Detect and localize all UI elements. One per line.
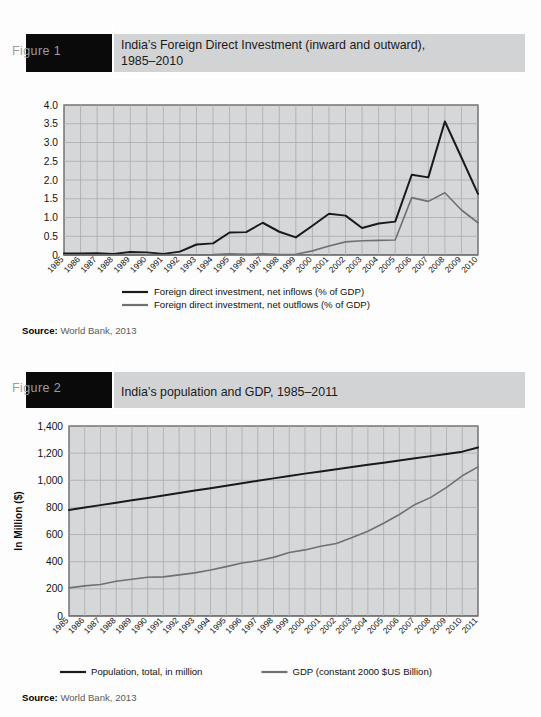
figure-1-vertical-rule bbox=[112, 20, 114, 78]
svg-text:1,000: 1,000 bbox=[38, 475, 64, 486]
svg-text:1987: 1987 bbox=[78, 254, 98, 274]
svg-text:1996: 1996 bbox=[223, 615, 243, 635]
svg-text:1988: 1988 bbox=[97, 615, 117, 635]
svg-text:2.0: 2.0 bbox=[44, 175, 58, 186]
svg-text:2004: 2004 bbox=[360, 254, 380, 274]
svg-text:800: 800 bbox=[46, 502, 63, 513]
svg-text:1995: 1995 bbox=[207, 615, 227, 635]
svg-text:1988: 1988 bbox=[95, 254, 115, 274]
svg-text:3.0: 3.0 bbox=[44, 137, 58, 148]
figure-1-tab-label: Figure 1 bbox=[12, 44, 61, 58]
svg-text:2011: 2011 bbox=[460, 615, 480, 635]
svg-text:2000: 2000 bbox=[286, 615, 306, 635]
svg-text:200: 200 bbox=[46, 583, 63, 594]
svg-text:1998: 1998 bbox=[260, 254, 280, 274]
figure-2-tab-label: Figure 2 bbox=[12, 381, 61, 395]
svg-text:1994: 1994 bbox=[192, 615, 212, 635]
svg-text:1992: 1992 bbox=[160, 615, 180, 635]
svg-text:0.5: 0.5 bbox=[44, 231, 58, 242]
svg-text:1.0: 1.0 bbox=[44, 212, 58, 223]
fdi-line-chart: 00.51.01.52.02.53.03.54.0198519861987198… bbox=[0, 96, 541, 321]
svg-text:2009: 2009 bbox=[443, 254, 463, 274]
svg-text:2003: 2003 bbox=[343, 254, 363, 274]
svg-text:Foreign direct investment, net: Foreign direct investment, net inflows (… bbox=[154, 286, 364, 297]
figure-2-title: India’s population and GDP, 1985–2011 bbox=[121, 385, 338, 401]
svg-text:2007: 2007 bbox=[409, 254, 429, 274]
svg-text:2010: 2010 bbox=[459, 254, 479, 274]
y-axis-ticks: 00.51.01.52.02.53.03.54.0 bbox=[44, 100, 59, 261]
svg-text:2007: 2007 bbox=[396, 615, 416, 635]
svg-text:1989: 1989 bbox=[113, 615, 133, 635]
svg-text:1999: 1999 bbox=[277, 254, 297, 274]
svg-text:2009: 2009 bbox=[428, 615, 448, 635]
svg-text:1998: 1998 bbox=[255, 615, 275, 635]
svg-text:2005: 2005 bbox=[365, 615, 385, 635]
svg-text:1,400: 1,400 bbox=[38, 421, 64, 432]
figure-1-source-value: World Bank, 2013 bbox=[60, 325, 136, 336]
svg-text:1995: 1995 bbox=[211, 254, 231, 274]
svg-text:2002: 2002 bbox=[318, 615, 338, 635]
figure-2-underline bbox=[112, 412, 525, 414]
svg-text:3.5: 3.5 bbox=[44, 118, 58, 129]
svg-text:2.5: 2.5 bbox=[44, 156, 58, 167]
svg-text:2008: 2008 bbox=[426, 254, 446, 274]
svg-text:4.0: 4.0 bbox=[44, 100, 58, 111]
svg-text:1994: 1994 bbox=[194, 254, 214, 274]
svg-text:1993: 1993 bbox=[176, 615, 196, 635]
svg-text:1997: 1997 bbox=[239, 615, 259, 635]
svg-text:1991: 1991 bbox=[145, 254, 165, 274]
chart-legend: Population, total, in millionGDP (consta… bbox=[60, 666, 432, 677]
document-page: Figure 1 India’s Foreign Direct Investme… bbox=[0, 0, 541, 717]
svg-text:1986: 1986 bbox=[62, 254, 82, 274]
figure-1-title: India’s Foreign Direct Investment (inwar… bbox=[121, 38, 425, 69]
figure-2-source-label: Source: bbox=[22, 692, 58, 703]
svg-text:2010: 2010 bbox=[443, 615, 463, 635]
svg-text:1987: 1987 bbox=[82, 615, 102, 635]
svg-text:600: 600 bbox=[46, 529, 63, 540]
svg-text:2006: 2006 bbox=[381, 615, 401, 635]
x-axis-ticks: 1985198619871988198919901991199219931994… bbox=[45, 254, 479, 274]
svg-text:1992: 1992 bbox=[161, 254, 181, 274]
x-axis-ticks: 1985198619871988198919901991199219931994… bbox=[50, 615, 479, 635]
svg-text:400: 400 bbox=[46, 556, 63, 567]
figure-1-source: Source: World Bank, 2013 bbox=[22, 325, 137, 336]
svg-text:2001: 2001 bbox=[310, 254, 330, 274]
svg-text:2008: 2008 bbox=[412, 615, 432, 635]
figure-2-source-value: World Bank, 2013 bbox=[60, 692, 136, 703]
svg-text:1985: 1985 bbox=[50, 615, 70, 635]
svg-text:2003: 2003 bbox=[333, 615, 353, 635]
figure-1-chart: 00.51.01.52.02.53.03.54.0198519861987198… bbox=[0, 96, 541, 321]
svg-text:Population, total, in million: Population, total, in million bbox=[91, 666, 202, 677]
figure-2-chart: 02004006008001,0001,2001,400In Million (… bbox=[0, 418, 541, 683]
svg-text:1986: 1986 bbox=[66, 615, 86, 635]
population-gdp-line-chart: 02004006008001,0001,2001,400In Million (… bbox=[0, 418, 541, 683]
svg-text:2004: 2004 bbox=[349, 615, 369, 635]
svg-text:1993: 1993 bbox=[178, 254, 198, 274]
svg-text:1996: 1996 bbox=[227, 254, 247, 274]
svg-text:2000: 2000 bbox=[294, 254, 314, 274]
svg-text:1990: 1990 bbox=[128, 254, 148, 274]
svg-text:2002: 2002 bbox=[327, 254, 347, 274]
svg-text:1.5: 1.5 bbox=[44, 193, 58, 204]
svg-text:1991: 1991 bbox=[145, 615, 165, 635]
svg-text:Foreign direct investment, net: Foreign direct investment, net outflows … bbox=[154, 299, 370, 310]
figure-1-underline bbox=[112, 76, 525, 78]
y-axis-ticks: 02004006008001,0001,2001,400 bbox=[38, 421, 64, 622]
svg-text:2005: 2005 bbox=[376, 254, 396, 274]
svg-text:1999: 1999 bbox=[270, 615, 290, 635]
svg-text:1,200: 1,200 bbox=[38, 448, 64, 459]
svg-text:1989: 1989 bbox=[111, 254, 131, 274]
svg-text:1990: 1990 bbox=[129, 615, 149, 635]
svg-text:1985: 1985 bbox=[45, 254, 65, 274]
svg-text:1997: 1997 bbox=[244, 254, 264, 274]
svg-text:2001: 2001 bbox=[302, 615, 322, 635]
chart-legend: Foreign direct investment, net inflows (… bbox=[122, 286, 370, 310]
svg-text:2006: 2006 bbox=[393, 254, 413, 274]
figure-1-source-label: Source: bbox=[22, 325, 58, 336]
figure-2-vertical-rule bbox=[112, 358, 114, 414]
figure-2-source: Source: World Bank, 2013 bbox=[22, 692, 137, 703]
y-axis-title: In Million ($) bbox=[13, 491, 24, 550]
svg-text:GDP (constant 2000 $US Billion: GDP (constant 2000 $US Billion) bbox=[292, 666, 432, 677]
